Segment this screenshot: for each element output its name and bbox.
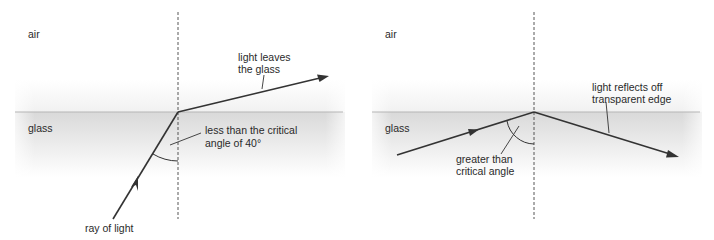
label-angle-line2: angle of 40° <box>205 137 261 149</box>
label-air: air <box>385 28 397 40</box>
label-outgoing-line1: light leaves <box>238 51 291 63</box>
label-angle-line1: less than the critical <box>205 124 297 136</box>
label-angle-line2: critical angle <box>456 165 514 177</box>
panel-reflection <box>372 12 702 219</box>
diagram-svg <box>0 0 714 240</box>
label-outgoing-line2: transparent edge <box>592 93 671 105</box>
label-air: air <box>28 28 40 40</box>
label-glass: glass <box>28 122 53 134</box>
diagram-canvas: air glass light leaves the glass less th… <box>0 0 714 240</box>
label-incident: ray of light <box>85 222 133 234</box>
label-angle-line1: greater than <box>456 153 513 165</box>
label-outgoing-line2: the glass <box>238 63 280 75</box>
label-glass: glass <box>385 122 410 134</box>
label-outgoing-line1: light reflects off <box>592 81 662 93</box>
panel-refraction <box>15 12 345 219</box>
